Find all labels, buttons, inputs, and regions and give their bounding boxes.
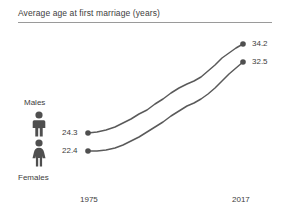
series-marker-males-start bbox=[85, 130, 91, 136]
x-axis-tick-end: 2017 bbox=[232, 195, 250, 204]
male-pictogram-icon bbox=[30, 111, 48, 137]
line-chart-plot bbox=[0, 0, 289, 215]
chart-card: Average age at first marriage (years) 24… bbox=[0, 0, 289, 215]
series-marker-females-end bbox=[240, 59, 246, 65]
value-label-males-end: 34.2 bbox=[252, 39, 268, 48]
x-axis-tick-start: 1975 bbox=[80, 195, 98, 204]
series-marker-females-start bbox=[85, 148, 91, 154]
value-label-females-start: 22.4 bbox=[62, 146, 78, 155]
legend-label-females: Females bbox=[18, 173, 49, 182]
series-marker-males-end bbox=[240, 41, 246, 47]
value-label-females-end: 32.5 bbox=[252, 57, 268, 66]
series-line-females bbox=[88, 62, 243, 151]
value-label-males-start: 24.3 bbox=[62, 128, 78, 137]
female-pictogram-icon bbox=[30, 139, 48, 167]
legend-label-males: Males bbox=[24, 98, 45, 107]
